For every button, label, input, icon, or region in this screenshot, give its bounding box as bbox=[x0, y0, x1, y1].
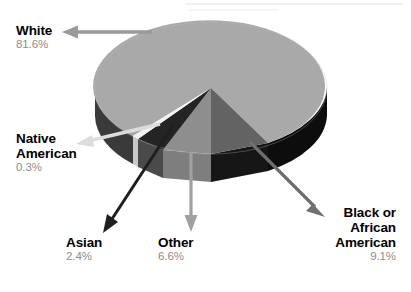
slice-label-native-american-name-line2: American bbox=[16, 146, 77, 161]
pie-chart-figure: White 81.6% Native American 0.3% Asian 2… bbox=[0, 0, 411, 292]
slice-label-white-name: White bbox=[16, 23, 52, 38]
slice-label-asian: Asian 2.4% bbox=[66, 235, 102, 263]
slice-label-native-american-value: 0.3% bbox=[16, 161, 77, 174]
slice-label-white: White 81.6% bbox=[16, 23, 52, 51]
slice-label-native-american-name-line1: Native bbox=[16, 131, 77, 146]
slice-label-native-american: Native American 0.3% bbox=[16, 131, 77, 174]
slice-label-other-value: 6.6% bbox=[158, 250, 194, 263]
slice-label-black-african-american-name-line2: African bbox=[236, 220, 396, 235]
slice-label-white-value: 81.6% bbox=[16, 38, 52, 51]
slice-label-other: Other 6.6% bbox=[158, 235, 194, 263]
slice-label-black-african-american-name-line1: Black or bbox=[236, 205, 396, 220]
pie-side-native-american bbox=[133, 136, 138, 167]
slice-label-asian-value: 2.4% bbox=[66, 250, 102, 263]
slice-label-black-african-american-value: 9.1% bbox=[236, 250, 396, 263]
pie-side-other bbox=[163, 150, 211, 182]
slice-label-black-african-american: Black or African American 9.1% bbox=[236, 205, 396, 263]
slice-label-black-african-american-name-line3: American bbox=[236, 235, 396, 250]
slice-label-asian-name: Asian bbox=[66, 235, 102, 250]
slice-label-other-name: Other bbox=[158, 235, 194, 250]
